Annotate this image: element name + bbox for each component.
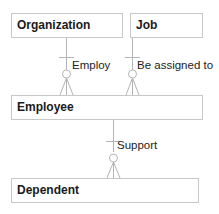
entity-employee[interactable]: Employee xyxy=(11,95,203,120)
entity-job[interactable]: Job xyxy=(130,13,203,38)
entity-label: Organization xyxy=(17,18,90,32)
relationship-label-support: Support xyxy=(117,139,157,151)
entity-label: Job xyxy=(136,18,157,32)
relationship-label-be-assigned-to: Be assigned to xyxy=(137,59,213,71)
entity-organization[interactable]: Organization xyxy=(11,13,123,38)
entity-label: Employee xyxy=(17,100,74,114)
relationship-label-employ: Employ xyxy=(72,59,110,71)
entity-dependent[interactable]: Dependent xyxy=(11,178,199,203)
entity-label: Dependent xyxy=(17,183,79,197)
